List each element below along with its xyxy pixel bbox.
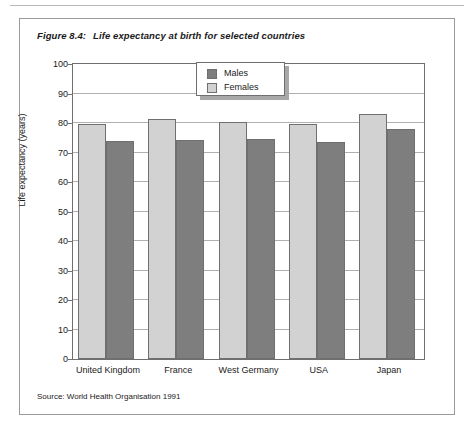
chart: 0102030405060708090100 Life expectancy (… [0,0,474,438]
bar-group [359,64,415,359]
y-axis-tick-mark [68,241,72,242]
x-axis-tick-label: USA [284,365,354,375]
legend-swatch-females [207,83,217,93]
y-axis-tick-mark [68,182,72,183]
y-axis-tick-mark [68,300,72,301]
x-axis-tick-label: France [143,365,213,375]
y-axis-tick-mark [68,359,72,360]
bars-layer [73,64,424,359]
y-axis-tick-mark [68,153,72,154]
y-axis-tick-mark [68,94,72,95]
y-axis-tick-label: 60 [42,178,68,187]
x-axis-tick-label: United Kingdom [73,365,143,375]
y-axis-tick-label: 0 [42,355,68,364]
y-axis-tick-mark [68,330,72,331]
y-axis-tick-mark [68,271,72,272]
y-axis-tick-label: 20 [42,296,68,305]
y-axis-tick-mark [68,123,72,124]
legend-label: Males [224,69,248,78]
bar-males-japan [387,129,415,359]
y-axis-tick-label: 100 [42,60,68,69]
bar-females-japan [359,114,387,359]
bar-females-usa [289,124,317,359]
y-axis-tick-label: 80 [42,119,68,128]
y-axis-tick-labels: 0102030405060708090100 [40,63,68,360]
bar-group [219,64,275,359]
y-axis-tick-mark [68,212,72,213]
x-axis-tick-label: Japan [354,365,424,375]
bar-group [148,64,204,359]
legend-item: Females [207,81,284,94]
bar-group [289,64,345,359]
bar-males-west-germany [247,139,275,359]
bar-group [78,64,134,359]
bar-females-west-germany [219,122,247,359]
legend-label: Females [224,83,259,92]
y-axis-title: Life expectancy (years) [17,80,27,240]
x-axis-tick-label: West Germany [213,365,283,375]
bar-males-united-kingdom [106,141,134,359]
y-axis-tick-label: 90 [42,90,68,99]
chart-legend: MalesFemales [196,62,285,96]
legend-swatch-males [207,69,217,79]
bar-males-usa [317,142,345,359]
y-axis-tick-label: 10 [42,326,68,335]
y-axis-tick-label: 30 [42,267,68,276]
y-axis-tick-label: 40 [42,237,68,246]
figure-page: Figure 8.4:Life expectancy at birth for … [0,0,474,438]
bar-females-france [148,119,176,359]
legend-item: Males [207,67,284,80]
bar-females-united-kingdom [78,124,106,359]
y-axis-tick-mark [68,64,72,65]
y-axis-tick-label: 50 [42,208,68,217]
y-axis-tick-label: 70 [42,149,68,158]
bar-males-france [176,140,204,359]
source-note: Source: World Health Organisation 1991 [37,392,181,401]
